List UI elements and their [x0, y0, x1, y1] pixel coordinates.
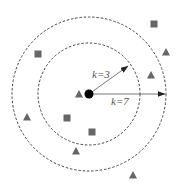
knn-diagram: k=3 k=7	[0, 0, 177, 191]
square-point-icon	[89, 129, 96, 136]
triangle-point-icon	[129, 171, 137, 179]
triangle-point-icon	[75, 90, 83, 98]
triangle-point-icon	[23, 113, 31, 121]
triangle-point-icon	[147, 71, 155, 79]
square-point-icon	[151, 21, 158, 28]
triangle-point-icon	[162, 48, 170, 56]
square-point-icon	[35, 51, 42, 58]
square-point-icon	[64, 115, 71, 122]
triangle-point-icon	[72, 147, 80, 155]
query-point-icon	[85, 90, 94, 99]
k3-label: k=3	[92, 68, 110, 80]
k7-label: k=7	[111, 95, 129, 107]
